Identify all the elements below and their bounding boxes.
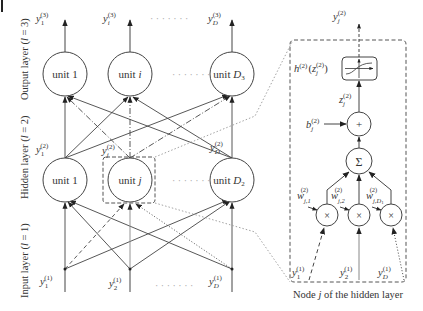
svg-text:y1(1): y1(1) bbox=[291, 265, 305, 281]
node-detail-caption: Node j of the hidden layer bbox=[293, 289, 403, 300]
label-yD1-1: yD(1) bbox=[208, 274, 223, 290]
hidden-layer-label: Hidden layer (l = 2) bbox=[19, 115, 31, 199]
svg-text:×: × bbox=[356, 210, 362, 221]
label-y2-1: y2(1) bbox=[108, 276, 122, 292]
svg-text:unit i: unit i bbox=[119, 68, 142, 80]
svg-text:· · · · · · ·: · · · · · · · bbox=[172, 175, 210, 186]
weight-label-2: wj,2(2) bbox=[331, 186, 345, 204]
label-yi-3: yi(3) bbox=[102, 11, 116, 27]
input-hidden-connections bbox=[65, 200, 232, 269]
svg-text:×: × bbox=[324, 210, 330, 221]
label-y1-3: y1(3) bbox=[35, 11, 49, 27]
svg-text:unit 1: unit 1 bbox=[52, 174, 77, 186]
svg-text:· · · · · · ·: · · · · · · · bbox=[155, 280, 193, 291]
weight-label-D1: wj,D1(2) bbox=[366, 186, 384, 205]
label-yD3-3: yD(3) bbox=[207, 11, 222, 27]
node-output-label: yj(2) bbox=[332, 9, 346, 25]
svg-text:· · · · · · ·: · · · · · · · bbox=[150, 13, 188, 24]
output-layer-label: Output layer (l = 3) bbox=[19, 18, 31, 100]
activation-label: h(2)(zj(2)) bbox=[294, 61, 328, 77]
weight-label-1: wj,1(2) bbox=[297, 186, 311, 204]
svg-text:×: × bbox=[388, 210, 394, 221]
hidden-output-connections bbox=[65, 95, 232, 158]
label-y1-1: y1(1) bbox=[39, 274, 53, 290]
svg-text:y2(1): y2(1) bbox=[339, 265, 353, 281]
neural-network-diagram: Output layer (l = 3) Hidden layer (l = 2… bbox=[0, 0, 423, 311]
input-layer-label: Input layer (l = 1) bbox=[19, 223, 31, 298]
svg-text:unit 1: unit 1 bbox=[52, 68, 77, 80]
svg-text:yD(1): yD(1) bbox=[377, 265, 392, 281]
output-arrows bbox=[65, 20, 232, 52]
label-y1-2: y1(2) bbox=[35, 142, 49, 158]
bias-label: bj(2) bbox=[306, 117, 320, 133]
svg-text:unit D3: unit D3 bbox=[213, 68, 245, 82]
svg-text:Σ: Σ bbox=[356, 155, 363, 169]
input-stems bbox=[65, 269, 232, 292]
preactivation-label: zj(2) bbox=[338, 92, 352, 108]
page-edge-mark bbox=[1, 0, 3, 12]
svg-text:unit D2: unit D2 bbox=[213, 174, 245, 188]
svg-text:· · · · · · ·: · · · · · · · bbox=[172, 69, 210, 80]
svg-text:+: + bbox=[356, 118, 362, 130]
svg-text:unit j: unit j bbox=[119, 174, 142, 186]
